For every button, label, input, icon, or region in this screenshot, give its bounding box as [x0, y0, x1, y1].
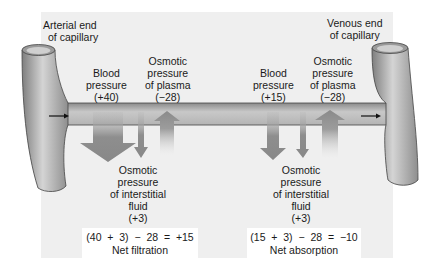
net-absorption-box: (15 + 3) − 28 = −10 Net absorption: [247, 228, 361, 259]
venous-plasma-osmotic-label: Osmotic pressure of plasma (−28): [310, 55, 356, 103]
venous-blood-pressure-label: Blood pressure (+15): [253, 67, 294, 103]
arterial-plasma-osmotic-label: Osmotic pressure of plasma (−28): [145, 55, 191, 103]
label-line: fluid: [273, 200, 329, 212]
arterial-plasma-osmotic-value: (−28): [145, 91, 191, 103]
label-line: Osmotic: [310, 55, 356, 67]
venous-plasma-osmotic-value: (−28): [310, 91, 356, 103]
arterial-interstitial-osmotic-value: (+3): [110, 212, 166, 224]
arterial-end-line2: of capillary: [43, 31, 98, 43]
label-line: pressure: [145, 67, 191, 79]
net-filtration-box: (40 + 3) − 28 = +15 Net filtration: [82, 228, 198, 259]
net-filtration-equation: (40 + 3) − 28 = +15: [82, 231, 198, 244]
label-line: pressure: [86, 79, 127, 91]
label-line: pressure: [310, 67, 356, 79]
venous-interstitial-osmotic-label: Osmotic pressure of interstitial fluid (…: [273, 164, 329, 224]
label-line: of interstitial: [273, 188, 329, 200]
venous-interstitial-osmotic-value: (+3): [273, 212, 329, 224]
label-line: of plasma: [145, 79, 191, 91]
label-line: Blood: [86, 67, 127, 79]
net-filtration-label: Net filtration: [82, 244, 198, 257]
venous-end-line2: of capillary: [327, 29, 382, 41]
arterial-blood-pressure-value: (+40): [86, 91, 127, 103]
label-line: Osmotic: [110, 164, 166, 176]
net-absorption-label: Net absorption: [247, 244, 361, 257]
arterial-end-label: Arterial end of capillary: [43, 19, 98, 43]
arterial-interstitial-osmotic-label: Osmotic pressure of interstitial fluid (…: [110, 164, 166, 224]
arterial-end-line1: Arterial end: [43, 19, 98, 31]
label-line: Osmotic: [273, 164, 329, 176]
venous-blood-pressure-value: (+15): [253, 91, 294, 103]
arteriole: [22, 45, 68, 192]
label-line: Blood: [253, 67, 294, 79]
label-line: of plasma: [310, 79, 356, 91]
arterial-blood-pressure-label: Blood pressure (+40): [86, 67, 127, 103]
label-line: fluid: [110, 200, 166, 212]
venous-plasma-osmotic-arrow-icon: [315, 110, 345, 158]
label-line: pressure: [273, 176, 329, 188]
venous-end-line1: Venous end: [327, 17, 382, 29]
venous-end-label: Venous end of capillary: [327, 17, 382, 41]
label-line: pressure: [253, 79, 294, 91]
label-line: of interstitial: [110, 188, 166, 200]
net-absorption-equation: (15 + 3) − 28 = −10: [247, 231, 361, 244]
label-line: Osmotic: [145, 55, 191, 67]
label-line: pressure: [110, 176, 166, 188]
